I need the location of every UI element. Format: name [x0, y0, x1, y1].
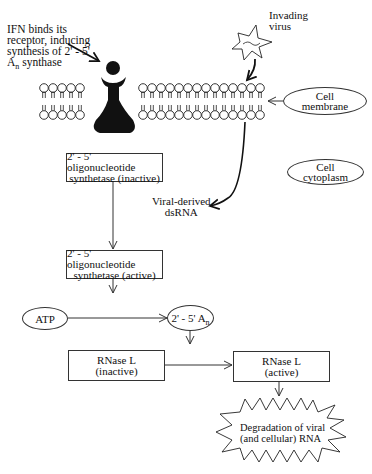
- dsrna-arrow: [210, 122, 245, 206]
- degradation-label: Degradation of viral (and cellular) RNA: [240, 422, 320, 444]
- oas-inactive-box: 2' - 5' oligonucleotide synthetase (inac…: [66, 153, 163, 182]
- rnase-inactive-box: RNase L (inactive): [68, 350, 165, 381]
- ifn-label-line4: An synthase: [7, 57, 90, 68]
- atp-oval: ATP: [22, 307, 68, 330]
- rnase-active-box: RNase L (active): [233, 351, 330, 382]
- ifn-receptor-icon: [94, 61, 135, 133]
- ifn-label: IFN binds its receptor, inducing synthes…: [7, 24, 90, 68]
- oas-active-box: 2' - 5' oligonucleotide synthetase (acti…: [66, 250, 163, 279]
- virus-entry-arrow: [247, 59, 255, 80]
- virus-label: Invading virus: [269, 10, 308, 32]
- virus-icon: [232, 25, 272, 60]
- cell-cytoplasm-label: Cell cytoplasm: [287, 159, 364, 185]
- diagram-graphics: [0, 0, 372, 474]
- two-five-an-oval: 2' - 5' An: [167, 305, 214, 331]
- membrane-right: [139, 84, 265, 120]
- membrane-left: [40, 84, 85, 120]
- two-five-an-label: 2' - 5' An: [171, 313, 209, 323]
- cell-membrane-label: Cell membrane: [283, 87, 367, 115]
- dsrna-label: Viral-derived dsRNA: [152, 196, 211, 218]
